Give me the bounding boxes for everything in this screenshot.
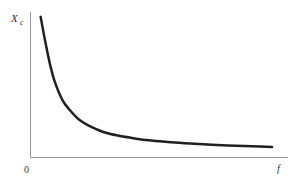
plot-canvas: X c f 0 [0,0,295,180]
reactance-curve [41,17,272,147]
x-axis-label: f [277,163,281,174]
y-axis-label: X [10,12,19,24]
reactance-frequency-figure: X c f 0 [0,0,295,180]
origin-tick-label: 0 [24,164,29,175]
y-axis-label-subscript: c [20,18,24,27]
